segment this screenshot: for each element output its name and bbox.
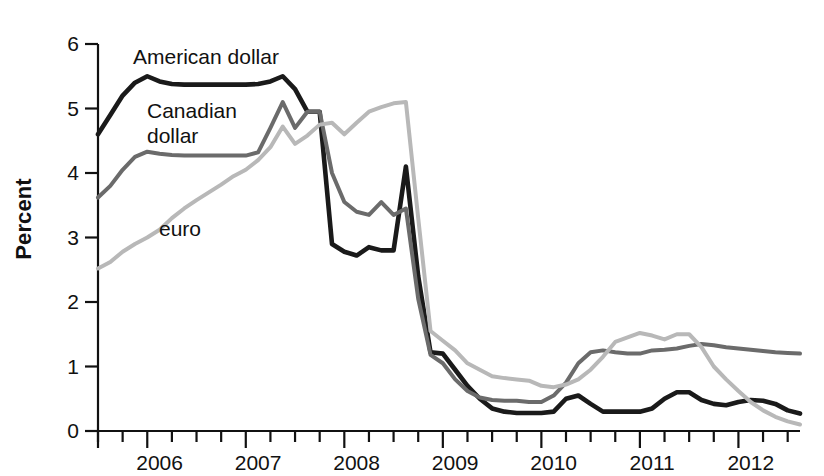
y-axis-label: Percent [4, 150, 44, 290]
x-tick-label-2007: 2007 [223, 452, 293, 473]
y-tick-label-3: 3 [53, 227, 79, 248]
y-tick-label-0: 0 [53, 420, 79, 441]
x-tick-label-2009: 2009 [420, 452, 490, 473]
x-tick-label-2011: 2011 [617, 452, 687, 473]
line-chart: Percent 0123456 200620072008200920102011… [0, 0, 824, 476]
chart-canvas [0, 0, 824, 476]
y-tick-label-1: 1 [53, 356, 79, 377]
series-label-canadian-dollar-line2: dollar [147, 124, 198, 147]
y-tick-label-6: 6 [53, 33, 79, 54]
series-label-euro: euro [159, 216, 201, 241]
y-axis-label-text: Percent [11, 149, 37, 289]
series-label-canadian-dollar-line1: Canadian [147, 99, 237, 122]
y-tick-label-2: 2 [53, 291, 79, 312]
y-tick-label-4: 4 [53, 162, 79, 183]
series-label-american-dollar: American dollar [133, 44, 279, 69]
series-label-canadian-dollar: Canadiandollar [147, 98, 237, 148]
x-tick-label-2012: 2012 [716, 452, 786, 473]
x-tick-label-2010: 2010 [519, 452, 589, 473]
series-line-euro [98, 102, 800, 425]
y-tick-label-5: 5 [53, 98, 79, 119]
x-tick-label-2008: 2008 [322, 452, 392, 473]
x-tick-label-2006: 2006 [125, 452, 195, 473]
